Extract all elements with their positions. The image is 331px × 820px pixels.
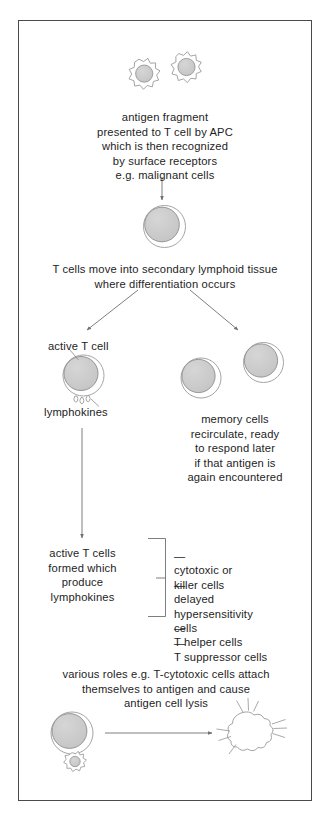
memory-cell-left [181, 358, 221, 398]
cell-type-dash-0: — [174, 550, 185, 562]
memory-cell-right [244, 343, 284, 383]
active-t-cell-icon [63, 355, 104, 396]
t-cell-icon [144, 206, 186, 248]
attached-antigen-cell-icon [64, 751, 87, 771]
lymphokines-label: lymphokines [44, 406, 108, 418]
cell-type-bracket [148, 539, 166, 617]
arrow-branch-right [190, 290, 238, 330]
active-t-cells-produce-text: active T cells formed which produce lymp… [25, 546, 140, 604]
antigen-presentation-text: antigen fragment presented to T cell by … [30, 110, 300, 183]
cell-type-item-3: — T suppressor cells [174, 621, 309, 665]
arrow-branch-left [87, 290, 138, 330]
cell-type-dash-3: — [174, 637, 185, 649]
cell-type-name-3: T suppressor cells [174, 651, 267, 663]
active-t-cell-label: active T cell [48, 340, 109, 352]
various-roles-text: various roles e.g. T-cytotoxic cells att… [26, 667, 306, 711]
diagram-canvas: antigen fragment presented to T cell by … [0, 0, 331, 820]
cytotoxic-t-cell-icon [51, 712, 93, 754]
differentiation-text: T cells move into secondary lymphoid tis… [24, 262, 306, 291]
memory-cells-text: memory cells recirculate, ready to respo… [170, 412, 300, 485]
lymphokine-droplets-icon [74, 396, 90, 404]
apc-cell-right [171, 52, 201, 83]
cell-type-dash-1: — [174, 579, 185, 591]
apc-cell-left [129, 58, 160, 89]
